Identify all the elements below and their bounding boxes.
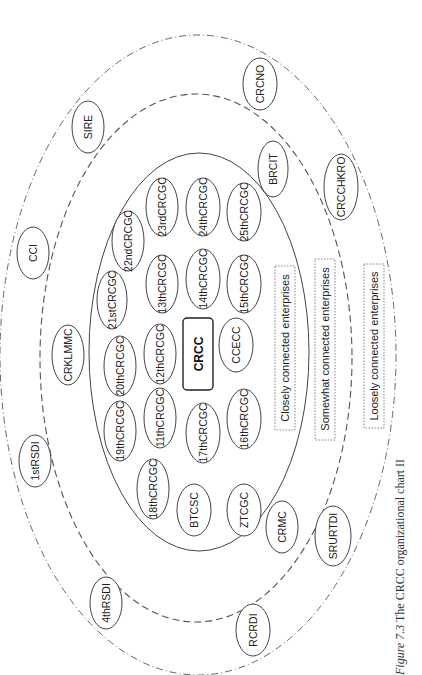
svg-text:17thCRCGC: 17thCRCGC [197, 403, 209, 462]
svg-text:13thCRCGC: 13thCRCGC [156, 254, 168, 313]
svg-text:ZTCGC: ZTCGC [238, 492, 250, 529]
svg-text:SIRE: SIRE [82, 115, 94, 140]
node-12th: 12thCRCGC [144, 324, 176, 384]
node-srurtdi: SRURTDI [315, 506, 351, 566]
node-btcsc: BTCSC [177, 484, 211, 536]
svg-text:CCI: CCI [27, 244, 39, 262]
svg-text:12thCRCGC: 12thCRCGC [154, 324, 166, 383]
svg-text:19thCRCGC: 19thCRCGC [114, 401, 126, 460]
node-ccecc: CCECC [219, 318, 253, 372]
svg-text:4thRSDI: 4thRSDI [100, 583, 112, 623]
node-brcit: BRCIT [258, 141, 288, 197]
node-20th: 20thCRCGC [104, 336, 136, 396]
node-24th: 24thCRCGC [186, 177, 220, 236]
svg-text:CRCCHKRO: CRCCHKRO [335, 157, 347, 218]
node-19th: 19thCRCGC [104, 401, 136, 461]
svg-text:Closely connected enterprises: Closely connected enterprises [279, 274, 291, 422]
node-21st: 21stCRCGC [97, 270, 127, 329]
node-crmc: CRMC [266, 501, 298, 553]
node-cci: CCI [17, 227, 49, 279]
figure-caption: Figure 7.3 The CRCC organizational chart… [393, 459, 407, 675]
svg-text:CRKLMMC: CRKLMMC [62, 328, 74, 382]
svg-text:Loosely connected enterprises: Loosely connected enterprises [368, 271, 380, 421]
node-15th: 15thCRCGC [227, 254, 261, 313]
node-14th: 14thCRCGC [186, 249, 220, 309]
svg-text:23rdCRCGC: 23rdCRCGC [156, 177, 168, 237]
svg-text:CRCNO: CRCNO [254, 65, 266, 104]
node-16th: 16thCRCGC [227, 389, 261, 449]
node-4thrsdi: 4thRSDI [90, 577, 122, 629]
crcc-org-chart: CRCC 22ndCRCGC 23rdCRCGC 24thCRCGC 25thC… [0, 0, 422, 675]
node-crklmmc: CRKLMMC [52, 325, 84, 385]
svg-text:21stCRCGC: 21stCRCGC [106, 270, 118, 329]
svg-text:BRCIT: BRCIT [267, 153, 279, 185]
node-22nd: 22ndCRCGC [112, 210, 144, 272]
svg-text:16thCRCGC: 16thCRCGC [238, 389, 250, 448]
legend-somewhat: Somewhat connected enterprises [315, 259, 335, 440]
svg-text:14thCRCGC: 14thCRCGC [197, 249, 209, 308]
svg-text:18thCRCGC: 18thCRCGC [147, 459, 159, 518]
svg-text:24thCRCGC: 24thCRCGC [197, 177, 209, 236]
node-25th: 25thCRCGC [227, 182, 261, 241]
svg-text:11thCRCGC: 11thCRCGC [154, 389, 166, 448]
svg-text:CRMC: CRMC [276, 511, 288, 543]
node-13th: 13thCRCGC [146, 254, 178, 313]
svg-text:BTCSC: BTCSC [188, 492, 200, 528]
node-11th: 11thCRCGC [144, 388, 176, 448]
node-23rd: 23rdCRCGC [146, 177, 178, 237]
node-sire: SIRE [72, 101, 104, 153]
svg-text:25thCRCGC: 25thCRCGC [238, 182, 250, 241]
svg-text:20thCRCGC: 20thCRCGC [114, 336, 126, 395]
svg-text:Somewhat connected enterprises: Somewhat connected enterprises [319, 267, 331, 431]
svg-text:CCECC: CCECC [230, 326, 242, 364]
svg-text:15thCRCGC: 15thCRCGC [238, 254, 250, 313]
node-17th: 17thCRCGC [186, 403, 220, 463]
legend-loosely: Loosely connected enterprises [364, 264, 384, 428]
svg-text:RCRDI: RCRDI [247, 613, 259, 646]
node-rcrdi: RCRDI [236, 604, 270, 656]
svg-text:22ndCRCGC: 22ndCRCGC [122, 210, 134, 272]
node-crcno: CRCNO [243, 58, 277, 110]
node-crcchkro: CRCCHKRO [324, 154, 358, 220]
svg-text:1stRSDI: 1stRSDI [29, 441, 41, 480]
node-1strsdi: 1stRSDI [19, 435, 51, 487]
core-node-crcc: CRCC [183, 318, 213, 390]
node-ztcgc: ZTCGC [227, 484, 261, 536]
svg-text:SRURTDI: SRURTDI [327, 513, 339, 559]
node-18th: 18thCRCGC [137, 459, 169, 519]
legend-closely: Closely connected enterprises [275, 266, 295, 430]
core-label: CRCC [192, 336, 206, 371]
